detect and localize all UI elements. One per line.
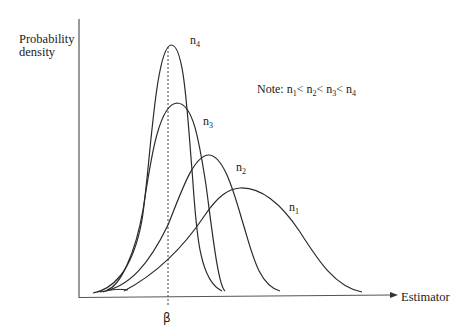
x-axis-label: Estimator bbox=[401, 290, 450, 304]
curve-n2 bbox=[100, 155, 280, 292]
curve-label-n3: n3 bbox=[203, 114, 213, 130]
y-axis-label: Probability density bbox=[19, 33, 75, 59]
note-annotation: Note: n1< n2< n3< n4 bbox=[257, 82, 356, 98]
curve-label-n2: n2 bbox=[236, 160, 246, 176]
curve-n4 bbox=[93, 45, 222, 293]
curve-label-n1: n1 bbox=[289, 200, 299, 216]
curve-n3 bbox=[107, 103, 225, 291]
x-axis-arrow-icon bbox=[390, 292, 398, 298]
y-axis-label-line2: density bbox=[19, 46, 75, 59]
beta-label: β bbox=[163, 311, 171, 325]
x-axis bbox=[79, 295, 393, 298]
curve-label-n4: n4 bbox=[190, 33, 200, 49]
